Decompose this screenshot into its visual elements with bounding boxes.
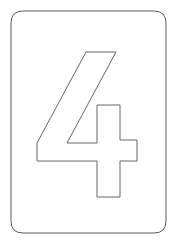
number-card-canvas: [0, 0, 175, 244]
page-root: 4: [0, 0, 175, 244]
tracing-card-border: [11, 11, 166, 233]
